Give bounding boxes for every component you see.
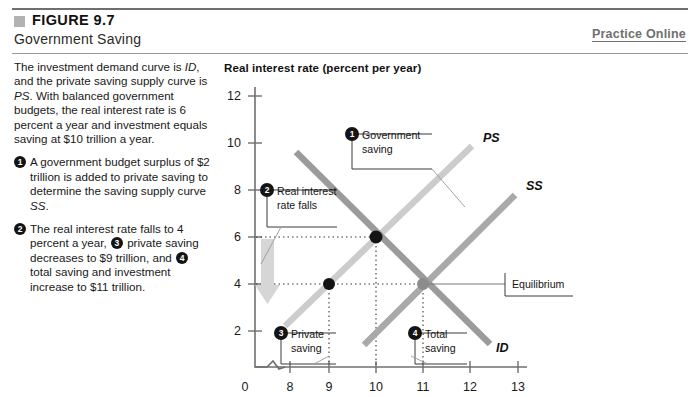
private-saving-point	[323, 278, 335, 290]
x-tick-label-9: 9	[326, 380, 333, 394]
curve-label-id: ID	[496, 341, 509, 355]
caption-column: The investment demand curve is ID, and t…	[14, 60, 212, 303]
callout-1-number: 1	[350, 129, 355, 139]
x-axis-ticks: 0 8 9 10 11 12 13	[242, 361, 525, 394]
header-rule-bottom	[12, 53, 688, 54]
caption-intro-text-1: The investment demand curve is	[14, 60, 185, 73]
callout-1-line-2: saving	[362, 143, 393, 155]
callout-3-line-2: saving	[291, 342, 322, 354]
step-2-bullet: 2	[14, 223, 26, 235]
x-tick-label-8: 8	[287, 380, 294, 394]
curve-ss	[364, 195, 515, 345]
equilibrium-label: Equilibrium	[512, 278, 565, 290]
y-tick-label-12: 12	[227, 89, 241, 103]
caption-step-1-text-2: .	[45, 199, 48, 212]
x-tick-label-10: 10	[369, 380, 383, 394]
initial-equilibrium-point	[370, 231, 383, 244]
y-tick-label-6: 6	[234, 230, 241, 244]
callout-1-line-1: Government	[362, 129, 420, 141]
equilibrium-callout: Equilibrium	[428, 273, 573, 296]
callout-4-line-2: saving	[425, 342, 456, 354]
chart-plot-area: 12 10 8 6 4 2 0 8 9 10 11 12 13	[215, 57, 700, 397]
caption-ps-label: PS	[14, 89, 29, 102]
caption-intro: The investment demand curve is ID, and t…	[14, 60, 212, 146]
y-tick-label-2: 2	[234, 324, 241, 338]
x-tick-label-12: 12	[463, 380, 477, 394]
curve-label-ss: SS	[526, 179, 543, 193]
figure-number: FIGURE 9.7	[32, 12, 115, 28]
x-tick-label-11: 11	[417, 380, 430, 394]
x-tick-label-13: 13	[511, 380, 525, 394]
y-tick-label-10: 10	[227, 136, 241, 150]
callout-2-number: 2	[265, 185, 270, 195]
rate-falls-arrow	[255, 239, 280, 304]
step-3-bullet: 3	[111, 237, 123, 249]
callout-3-line-1: Private	[291, 328, 324, 340]
callout-2-line-1: Real interest	[277, 185, 337, 197]
x-tick-label-0: 0	[242, 380, 249, 394]
figure-header: FIGURE 9.7 Government Saving Practice On…	[0, 0, 700, 57]
total-saving-callout: 4 Total saving	[408, 326, 467, 364]
callout-1-leader	[432, 169, 465, 207]
caption-step-1: 1A government budget surplus of $2 trill…	[14, 155, 212, 213]
callout-2-line-2: rate falls	[277, 199, 317, 211]
callout-4-line-1: Total	[425, 328, 447, 340]
y-tick-label-4: 4	[234, 277, 241, 291]
caption-intro-text-3: . With balanced government budgets, the …	[14, 89, 207, 145]
new-equilibrium-point	[417, 278, 429, 290]
private-saving-callout: 3 Private saving	[274, 326, 336, 364]
y-axis-ticks: 12 10 8 6 4 2	[227, 89, 262, 338]
practice-online-link[interactable]: Practice Online	[592, 27, 686, 41]
callout-4-number: 4	[413, 328, 418, 338]
step-4-bullet: 4	[176, 252, 188, 264]
caption-step-1-text-1: A government budget surplus of $2 trilli…	[30, 155, 210, 197]
callout-3-leader	[314, 356, 329, 364]
caption-ss-label: SS	[30, 199, 45, 212]
callout-4-leader	[411, 356, 428, 364]
callout-3-number: 3	[279, 328, 284, 338]
figure-marker-square	[14, 16, 25, 27]
caption-id-label: ID	[185, 60, 197, 73]
page-title: Government Saving	[14, 31, 141, 47]
y-tick-label-8: 8	[234, 183, 241, 197]
step-1-bullet: 1	[14, 156, 26, 168]
header-rule-top	[12, 8, 688, 10]
chart-panel: Real interest rate (percent per year) 12…	[215, 57, 700, 397]
curve-label-ps: PS	[483, 131, 500, 145]
caption-step-2: 2The real interest rate falls to 4 perce…	[14, 222, 212, 294]
caption-step-2-text-3: total saving and investment increase to …	[30, 265, 171, 292]
